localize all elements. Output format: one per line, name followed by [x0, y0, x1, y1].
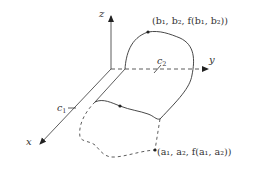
point-a-label: (a₁, a₂, f(a₁, a₂))	[157, 146, 231, 157]
y-axis-label: y	[208, 54, 215, 65]
c1-label: c1	[57, 102, 66, 115]
c2-label: c2	[157, 55, 166, 68]
c1-trace-line	[95, 69, 125, 102]
z-axis-label: z	[98, 8, 105, 19]
domain-curve-dashed	[80, 102, 155, 157]
z-axis: z	[98, 8, 111, 69]
point-b-label: (b₁, b₂, f(b₁, b₂))	[152, 15, 228, 26]
point-b-marker	[146, 30, 149, 33]
x-axis-label: x	[26, 136, 32, 147]
point-mid-marker	[118, 104, 121, 107]
surface-curve-diagram: z y x c1 c2 (b₁, b₂, f(b₁, b₂)) (a₁, a₂,…	[0, 0, 256, 171]
surface-curve-upper	[125, 31, 194, 119]
surface-curve-lower	[95, 101, 160, 120]
